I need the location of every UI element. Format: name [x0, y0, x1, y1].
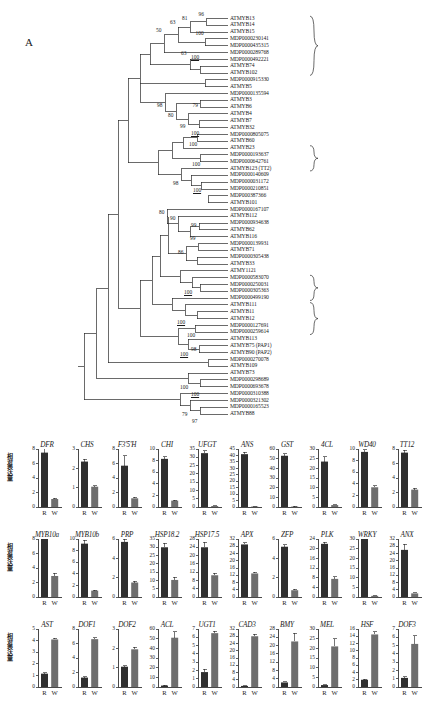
tree-bootstrap-value: 100: [184, 290, 192, 295]
tree-taxon-label: MDP0000915330: [230, 77, 269, 83]
bar: [201, 453, 208, 507]
x-axis-category-label: W: [89, 599, 100, 606]
gene-expression-chart: BMY0481216202428RW: [264, 619, 304, 709]
gene-expression-chart: HSP18.205101520253035RW: [144, 529, 184, 619]
chart-title: CHI: [150, 441, 184, 449]
tree-taxon-label: MDP0000642761: [230, 159, 269, 165]
panel-b-expression-charts: B 相对表达量DFR02468RWCHS0123RWF3'5'H02468RWC…: [0, 437, 425, 719]
chart-title: CAD3: [230, 621, 264, 629]
chart-title: WRKY: [350, 531, 384, 539]
gene-expression-chart: DOF102468RW: [64, 619, 104, 709]
bar: [361, 452, 368, 507]
tree-bootstrap-value: 99: [180, 124, 185, 129]
tree-bootstrap-value: 100: [192, 162, 200, 167]
x-axis-category-label: W: [49, 509, 60, 516]
gene-expression-chart: F3'5'H02468RW: [104, 439, 144, 529]
bar: [251, 573, 258, 597]
bar: [211, 633, 218, 687]
bar: [201, 672, 208, 687]
tree-taxon-label: MDP0000139931: [230, 241, 269, 247]
bar: [171, 638, 178, 687]
tree-taxon-label: ATMYB7: [230, 118, 252, 124]
tree-bootstrap-value: 90: [170, 216, 175, 221]
tree-taxon-label: MDP0000499190: [230, 295, 269, 301]
tree-taxon-label: ATMYB123 (TT2): [230, 166, 271, 172]
tree-bootstrap-value: 50: [156, 28, 161, 33]
tree-taxon-label: ATMYB5: [230, 84, 252, 90]
gene-expression-chart: DOF301234567RW: [384, 619, 424, 709]
tree-bootstrap-value: 79: [182, 412, 187, 417]
tree-taxon-label: ATMYB23: [230, 145, 254, 151]
tree-taxon-label: MDP0000250031: [230, 282, 269, 288]
bar: [91, 591, 98, 597]
bar: [41, 674, 48, 687]
tree-bootstrap-value: 100: [196, 31, 204, 36]
x-axis-category-label: W: [209, 599, 220, 606]
tree-taxon-label: MDP0000259614: [230, 329, 269, 335]
chart-title: ACL: [150, 621, 184, 629]
x-axis-category-label: W: [129, 509, 140, 516]
bar: [211, 575, 218, 597]
chart-title: CHS: [70, 441, 104, 449]
tree-taxon-label: ATMYB12: [230, 316, 254, 322]
chart-title: F3'5'H: [110, 441, 144, 449]
bar: [291, 641, 298, 687]
bar: [281, 682, 288, 687]
bar: [331, 646, 338, 687]
chart-title: DOF3: [390, 621, 424, 629]
gene-expression-chart: PLK04812162024RW: [304, 529, 344, 619]
gene-expression-chart: DFR02468RW: [24, 439, 64, 529]
tree-taxon-label: ATMYB11: [230, 309, 254, 315]
tree-bootstrap-value: 100: [177, 320, 185, 325]
gene-expression-chart: PRP0246RW: [104, 529, 144, 619]
tree-taxon-label: ATMYB6: [230, 104, 252, 110]
bar: [51, 639, 58, 687]
tree-bootstrap-value: 100: [191, 131, 199, 136]
tree-bootstrap-value: 96: [199, 12, 204, 17]
bar: [91, 487, 98, 507]
chart-title: PRP: [110, 531, 144, 539]
gene-expression-chart: CHS0123RW: [64, 439, 104, 529]
x-axis-category-label: W: [369, 509, 380, 516]
chart-title: PLK: [310, 531, 344, 539]
tree-taxon-label: ATMYB33: [230, 261, 254, 267]
chart-title: DOF1: [70, 621, 104, 629]
bar: [281, 547, 288, 597]
bar: [371, 596, 378, 597]
tree-taxon-label: ATMYB60: [230, 138, 254, 144]
gene-expression-chart: WRKY051015202530RW: [344, 529, 384, 619]
x-axis-category-label: W: [249, 689, 260, 696]
chart-title: ANS: [230, 441, 264, 449]
bar: [361, 680, 368, 687]
bar: [161, 686, 168, 687]
bar: [331, 505, 338, 507]
tree-taxon-label: ATMYB14: [230, 22, 254, 28]
tree-taxon-label: MDP0000135594: [230, 91, 269, 97]
chart-title: ANX: [390, 531, 424, 539]
tree-taxon-label: MDP000387366: [230, 193, 266, 199]
bar: [401, 453, 408, 507]
tree-taxon-label: MDP0000321302: [230, 398, 269, 404]
bar: [41, 539, 48, 597]
bar: [291, 590, 298, 597]
bar: [411, 644, 418, 687]
bar: [51, 499, 58, 507]
tree-bootstrap-value: 100: [189, 142, 197, 147]
tree-taxon-label: MDP0000167107: [230, 207, 269, 213]
tree-taxon-label: MDP0000805075: [230, 132, 269, 138]
bar: [331, 579, 338, 597]
x-axis-category-label: W: [409, 509, 420, 516]
tree-bootstrap-value: 98: [173, 181, 178, 186]
x-axis-category-label: W: [329, 509, 340, 516]
bar: [81, 462, 88, 507]
chart-title: UGT1: [190, 621, 224, 629]
chart-title: MYB10b: [70, 531, 104, 539]
gene-expression-chart: TT1202468RW: [384, 439, 424, 529]
tree-svg: [0, 0, 425, 437]
chart-title: APX: [230, 531, 264, 539]
chart-title: WD40: [350, 441, 384, 449]
gene-expression-chart: CAD3048121620242832RW: [224, 619, 264, 709]
tree-bootstrap-value: 79: [193, 103, 198, 108]
tree-bootstrap-value: 100: [187, 333, 195, 338]
gene-expression-chart: MEL051015202530RW: [304, 619, 344, 709]
